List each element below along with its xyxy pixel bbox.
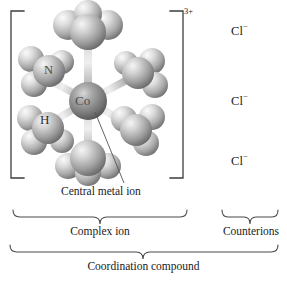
counterions-brace <box>222 210 278 224</box>
coordination-compound-figure: 3+ N H Co Cl− Cl− Cl− Central metal ion … <box>0 0 287 281</box>
counterion-symbol: Cl <box>231 24 243 38</box>
nitrogen-sphere <box>120 114 152 146</box>
ligand-ammine-lower-right <box>111 104 165 156</box>
ligand-ammine-top <box>53 0 123 50</box>
complex-charge-label: 3+ <box>184 7 193 16</box>
central-metal-ion-label: Central metal ion <box>61 186 141 198</box>
hydrogen-atom-label: H <box>40 112 49 128</box>
complex-ion-bracket-right <box>170 11 183 178</box>
diagram-canvas <box>0 0 287 281</box>
counterions-label: Counterions <box>205 226 287 238</box>
counterion-chloride-3: Cl− <box>231 153 248 168</box>
nitrogen-sphere <box>122 57 154 89</box>
counterion-charge: − <box>243 151 248 161</box>
complex-ion-bracket-left <box>11 11 24 178</box>
counterion-charge: − <box>243 21 248 31</box>
coordination-compound-brace <box>10 245 278 259</box>
counterion-symbol: Cl <box>231 154 243 168</box>
counterion-chloride-1: Cl− <box>231 23 248 38</box>
counterion-charge: − <box>243 91 248 101</box>
complex-ion-brace <box>13 210 187 224</box>
nitrogen-sphere <box>70 140 106 176</box>
nitrogen-sphere <box>70 14 106 50</box>
complex-ion-label: Complex ion <box>0 226 200 238</box>
counterion-symbol: Cl <box>231 94 243 108</box>
ligand-ammine-upper-right <box>114 48 168 98</box>
cobalt-atom-label: Co <box>75 93 90 109</box>
nitrogen-atom-label: N <box>44 63 53 78</box>
counterion-chloride-2: Cl− <box>231 93 248 108</box>
coordination-compound-label: Coordination compound <box>0 261 287 273</box>
